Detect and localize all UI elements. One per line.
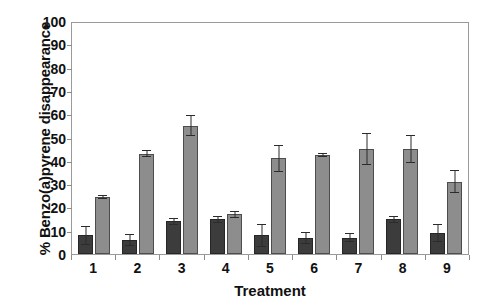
x-tick-label: 9 xyxy=(425,261,469,275)
y-tick-mark xyxy=(67,139,72,140)
x-tick-label: 1 xyxy=(71,261,115,275)
x-tick-mark xyxy=(336,255,337,260)
bar-group xyxy=(248,23,292,254)
error-bar-light-series-4 xyxy=(234,211,235,218)
y-tick-label: 80 xyxy=(36,62,66,76)
bar-light-series-1[interactable] xyxy=(95,197,110,254)
bar-wrapper xyxy=(254,235,269,254)
bar-wrapper xyxy=(95,197,110,254)
bar-light-series-8[interactable] xyxy=(403,149,418,254)
x-tick-label: 7 xyxy=(336,261,380,275)
error-bar-dark-series-8 xyxy=(393,216,394,223)
y-tick-mark xyxy=(67,115,72,116)
y-tick-mark xyxy=(67,162,72,163)
bar-wrapper xyxy=(166,221,181,254)
bar-dark-series-3[interactable] xyxy=(166,221,181,254)
bar-wrapper xyxy=(359,149,374,254)
error-bar-dark-series-6 xyxy=(305,232,306,244)
bar-group xyxy=(160,23,204,254)
error-bar-dark-series-4 xyxy=(217,216,218,223)
bar-wrapper xyxy=(210,219,225,254)
x-tick-label: 8 xyxy=(381,261,425,275)
bar-wrapper xyxy=(403,149,418,254)
x-tick-mark xyxy=(469,255,470,260)
bar-light-series-5[interactable] xyxy=(271,158,286,254)
x-tick-mark xyxy=(71,255,72,260)
error-bar-dark-series-9 xyxy=(437,224,438,243)
bar-wrapper xyxy=(139,154,154,254)
error-bar-light-series-5 xyxy=(278,145,279,173)
bar-dark-series-4[interactable] xyxy=(210,219,225,254)
y-tick-label: 90 xyxy=(36,38,66,52)
error-bar-light-series-3 xyxy=(190,115,191,136)
bar-wrapper xyxy=(183,126,198,254)
bar-group xyxy=(292,23,336,254)
error-bar-dark-series-2 xyxy=(129,234,130,246)
bar-group xyxy=(72,23,116,254)
bar-group xyxy=(116,23,160,254)
y-tick-label: 60 xyxy=(36,108,66,122)
y-tick-mark xyxy=(67,69,72,70)
x-tick-label: 4 xyxy=(204,261,248,275)
error-bar-light-series-9 xyxy=(454,170,455,193)
x-tick-mark xyxy=(425,255,426,260)
error-bar-light-series-2 xyxy=(146,150,147,157)
bar-wrapper xyxy=(122,240,137,254)
x-axis-tick-labels: 123456789 xyxy=(71,261,469,275)
bar-groups xyxy=(72,23,468,254)
y-tick-label: 10 xyxy=(36,225,66,239)
bar-wrapper xyxy=(447,182,462,254)
bar-wrapper xyxy=(430,233,445,254)
error-bar-dark-series-3 xyxy=(173,218,174,225)
bar-group xyxy=(380,23,424,254)
x-axis-title: Treatment xyxy=(71,283,469,298)
x-tick-mark xyxy=(204,255,205,260)
bar-wrapper xyxy=(386,219,401,254)
y-tick-label: 100 xyxy=(36,15,66,29)
x-tick-label: 5 xyxy=(248,261,292,275)
y-tick-mark xyxy=(67,208,72,209)
x-tick-label: 3 xyxy=(159,261,203,275)
y-tick-label: 50 xyxy=(36,132,66,146)
bar-light-series-4[interactable] xyxy=(227,214,242,254)
bar-group xyxy=(204,23,248,254)
error-bar-dark-series-7 xyxy=(349,233,350,242)
x-tick-mark xyxy=(381,255,382,260)
y-tick-mark xyxy=(67,232,72,233)
bar-light-series-6[interactable] xyxy=(315,155,330,254)
bar-wrapper xyxy=(227,214,242,254)
error-bar-light-series-7 xyxy=(366,133,367,166)
bar-wrapper xyxy=(298,238,313,254)
x-tick-label: 6 xyxy=(292,261,336,275)
x-tick-mark xyxy=(248,255,249,260)
y-axis-tick-labels: 0102030405060708090100 xyxy=(36,0,66,306)
bar-wrapper xyxy=(315,155,330,254)
y-tick-mark xyxy=(67,92,72,93)
x-tick-mark xyxy=(115,255,116,260)
bar-wrapper xyxy=(271,158,286,254)
y-tick-label: 70 xyxy=(36,85,66,99)
bar-group xyxy=(424,23,468,254)
error-bar-dark-series-1 xyxy=(85,226,86,245)
error-bar-light-series-1 xyxy=(102,195,103,199)
y-tick-label: 20 xyxy=(36,201,66,215)
y-tick-label: 0 xyxy=(36,248,66,262)
x-tick-mark xyxy=(292,255,293,260)
error-bar-light-series-8 xyxy=(410,135,411,163)
y-tick-label: 30 xyxy=(36,178,66,192)
error-bar-dark-series-5 xyxy=(261,224,262,247)
plot-area xyxy=(71,22,469,255)
bar-wrapper xyxy=(78,235,93,254)
bar-dark-series-8[interactable] xyxy=(386,219,401,254)
bar-light-series-2[interactable] xyxy=(139,154,154,254)
error-bar-light-series-6 xyxy=(322,153,323,157)
x-tick-mark xyxy=(159,255,160,260)
bar-light-series-3[interactable] xyxy=(183,126,198,254)
y-tick-mark xyxy=(67,185,72,186)
y-tick-mark xyxy=(67,45,72,46)
bar-wrapper xyxy=(342,238,357,254)
bar-group xyxy=(336,23,380,254)
y-tick-label: 40 xyxy=(36,155,66,169)
bar-chart-figure: % Benzo(a)pyrene disappearance 010203040… xyxy=(0,0,477,306)
x-tick-label: 2 xyxy=(115,261,159,275)
